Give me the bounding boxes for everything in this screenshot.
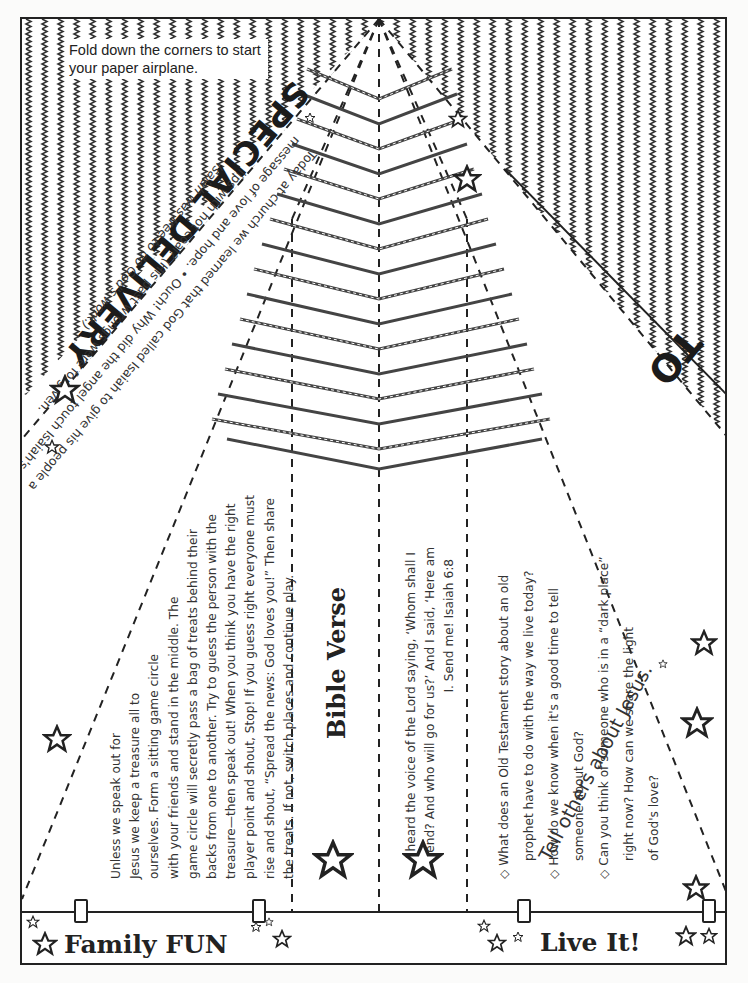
star-icon [448,109,468,129]
star-icon [682,874,710,902]
star-icon [700,927,718,945]
footer-band: Family FUN Live It! [22,911,725,963]
star-icon [512,931,524,943]
family-fun-line: backs from one to another. Try to guess … [203,495,222,879]
star-icon [32,931,58,957]
star-icon [250,921,262,933]
tape-tab [702,899,716,923]
star-icon [42,724,72,754]
star-icon [272,929,292,949]
bible-verse-line: send? And who will go for us?’ And I sai… [421,559,440,859]
diamond-bullet-icon: ◇ [497,870,511,879]
star-icon [675,925,697,947]
star-icon [680,706,714,740]
bible-verse-line: I. Send me! Isaiah 6:8 [440,559,459,859]
family-fun-line: with your friends and stand in the middl… [165,495,184,879]
family-fun-line: the treats. If not, switch places and co… [280,495,299,879]
bible-verse-line: I heard the voice of the Lord saying, ‘W… [402,559,421,859]
star-icon [26,915,40,929]
star-icon [44,439,60,455]
family-fun-line: player point and shout, Stop! If you gue… [241,495,260,879]
family-fun-line: game circle will secretly pass a bag of … [184,495,203,879]
star-icon [477,919,491,933]
live-it-label: Live It! [540,928,640,957]
family-fun-line: rise and shout, “Spread the news: God lo… [261,495,280,879]
star-icon [402,839,444,881]
family-fun-line: treasure—then speak out! When you think … [222,495,241,879]
star-icon [312,839,354,881]
family-fun-line: Unless we speak out for [107,495,126,879]
star-icon [304,112,316,124]
diamond-bullet-icon: ◇ [547,870,561,879]
tape-tab [74,899,88,923]
star-icon [264,917,274,927]
tape-tab [517,899,531,923]
family-fun-text: Unless we speak out for Jesus we keep a … [107,495,299,879]
bible-verse-title: Bible Verse [322,587,351,739]
star-icon [658,659,668,669]
airplane-template-sheet: Fold down the corners to start your pape… [20,17,727,965]
star-icon [690,629,718,657]
family-fun-label: Family FUN [64,930,228,959]
diamond-bullet-icon: ◇ [597,870,611,879]
family-fun-line: ourselves. Form a sitting game circle [145,495,164,879]
family-fun-line: Jesus we keep a treasure all to [126,495,145,879]
question-item: ◇ How do we know when it's a good time t… [542,556,567,879]
star-icon [452,164,482,194]
live-it-questions: ◇ What does an Old Testament story about… [492,556,667,879]
fold-instructions: Fold down the corners to start your pape… [65,39,268,79]
star-icon [487,933,507,953]
bible-verse-text: I heard the voice of the Lord saying, ‘W… [402,559,459,859]
question-item: ◇ Can you think of someone who is in a “… [592,556,617,879]
star-icon [49,374,81,406]
question-item: ◇ What does an Old Testament story about… [492,556,517,879]
